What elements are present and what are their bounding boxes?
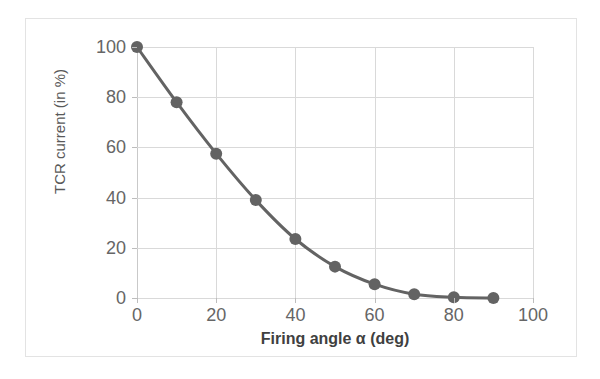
y-axis-tick (132, 248, 137, 249)
x-axis-tick (533, 298, 534, 303)
x-axis-tick-label: 100 (503, 306, 563, 324)
y-axis-tick-label: 100 (96, 38, 126, 56)
y-axis-tick-label: 80 (106, 88, 126, 106)
x-axis-tick (375, 298, 376, 303)
x-axis-tick (137, 298, 138, 303)
data-point-marker (369, 278, 381, 290)
y-axis-tick-label: 60 (106, 138, 126, 156)
data-point-marker (289, 233, 301, 245)
y-axis-tick (132, 147, 137, 148)
chart-figure: TCR current (in %) Firing angle α (deg) … (0, 0, 600, 379)
y-axis-tick (132, 198, 137, 199)
data-point-marker (171, 96, 183, 108)
x-axis-tick-label: 80 (424, 306, 484, 324)
data-point-marker (487, 292, 499, 304)
data-point-marker (210, 148, 222, 160)
y-axis-tick-label: 40 (106, 189, 126, 207)
data-point-marker (329, 261, 341, 273)
y-axis-tick-label: 20 (106, 239, 126, 257)
x-axis-tick-label: 60 (345, 306, 405, 324)
y-axis-tick (132, 47, 137, 48)
series-line (137, 47, 493, 298)
x-axis-tick-label: 40 (265, 306, 325, 324)
x-axis-tick (295, 298, 296, 303)
x-axis-tick-label: 20 (186, 306, 246, 324)
x-axis-tick (454, 298, 455, 303)
x-axis-tick-label: 0 (107, 306, 167, 324)
y-axis-tick-label: 0 (116, 289, 126, 307)
data-point-marker (250, 194, 262, 206)
y-axis-tick (132, 97, 137, 98)
x-axis-tick (216, 298, 217, 303)
data-point-marker (408, 288, 420, 300)
